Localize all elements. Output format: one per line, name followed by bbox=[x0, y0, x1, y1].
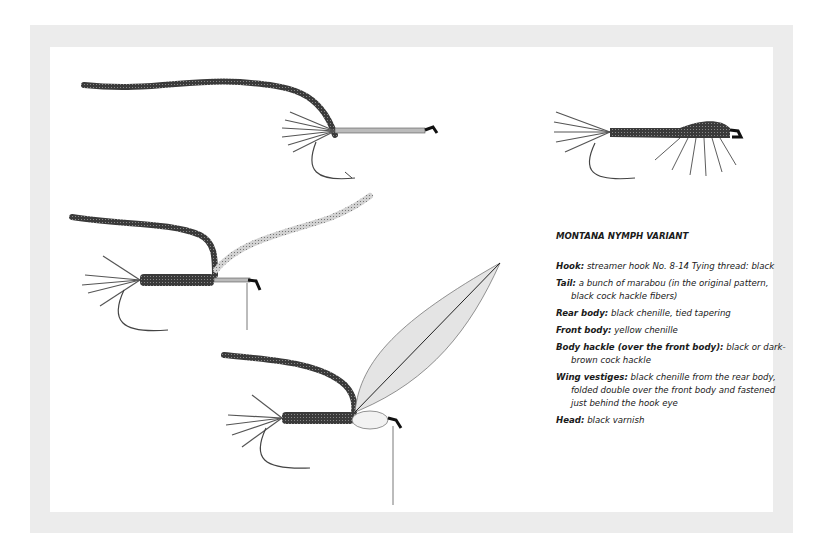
entry-hook: Hook: streamer hook No. 8-14 Tying threa… bbox=[556, 260, 786, 273]
step-1-chenille-tied-in bbox=[84, 81, 437, 178]
entry-front-body: Front body: yellow chenille bbox=[556, 324, 786, 337]
entry-wing-vestiges: Wing vestiges: black chenille from the r… bbox=[556, 371, 786, 410]
entry-rear-body: Rear body: black chenille, tied tapering bbox=[556, 307, 786, 320]
entry-head: Head: black varnish bbox=[556, 414, 786, 427]
finished-fly bbox=[554, 112, 741, 179]
step-2-rear-body-wound bbox=[72, 196, 370, 331]
step-3-hackle-tied-in bbox=[224, 263, 500, 505]
entry-body-hackle: Body hackle (over the front body): black… bbox=[556, 341, 786, 367]
entry-tail: Tail: a bunch of marabou (in the origina… bbox=[556, 277, 786, 303]
recipe-title: MONTANA NYMPH VARIANT bbox=[556, 230, 786, 243]
recipe-text: MONTANA NYMPH VARIANT Hook: streamer hoo… bbox=[556, 230, 786, 431]
